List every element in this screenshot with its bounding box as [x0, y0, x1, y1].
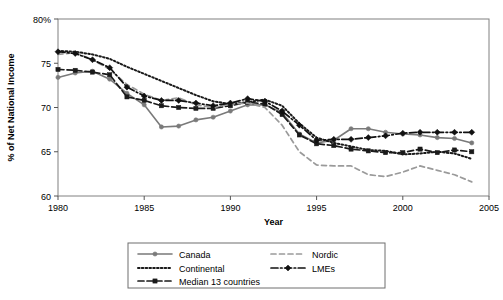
- data-point-marker: [401, 151, 405, 155]
- x-tick-label-1985: 1985: [134, 203, 154, 213]
- y-axis-title: % of Net National Income: [6, 53, 16, 161]
- x-tick-label-1995: 1995: [307, 203, 327, 213]
- x-tick-label-1990: 1990: [220, 203, 240, 213]
- data-point-marker: [332, 143, 336, 147]
- data-point-marker: [194, 106, 198, 110]
- legend-label-nordic: Nordic: [312, 250, 339, 260]
- data-point-marker: [383, 151, 387, 155]
- data-point-marker: [153, 279, 157, 283]
- y-tick-label-70: 70: [41, 103, 51, 113]
- data-point-marker: [153, 252, 157, 256]
- line-chart: 6065707580%198019851990199520002005Year%…: [0, 0, 503, 300]
- legend-label-continental: Continental: [179, 264, 225, 274]
- x-axis-title: Year: [264, 217, 284, 227]
- data-point-marker: [125, 95, 129, 99]
- data-point-marker: [418, 147, 422, 151]
- data-point-marker: [159, 104, 163, 108]
- data-point-marker: [470, 141, 474, 145]
- data-point-marker: [452, 148, 456, 152]
- data-point-marker: [435, 135, 439, 139]
- x-tick-label-2000: 2000: [393, 203, 413, 213]
- data-point-marker: [177, 124, 181, 128]
- legend-label-lmes: LMEs: [312, 264, 336, 274]
- legend-label-canada: Canada: [179, 250, 211, 260]
- data-point-marker: [470, 150, 474, 154]
- y-tick-label-60: 60: [41, 192, 51, 202]
- x-tick-label-1980: 1980: [48, 203, 68, 213]
- data-point-marker: [366, 127, 370, 131]
- data-point-marker: [211, 115, 215, 119]
- data-point-marker: [452, 136, 456, 140]
- data-point-marker: [297, 133, 301, 137]
- x-tick-label-2005: 2005: [479, 203, 499, 213]
- data-point-marker: [90, 70, 94, 74]
- y-tick-label-65: 65: [41, 147, 51, 157]
- data-point-marker: [159, 125, 163, 129]
- y-tick-label-75: 75: [41, 59, 51, 69]
- data-point-marker: [73, 68, 77, 72]
- data-point-marker: [56, 67, 60, 71]
- data-point-marker: [349, 147, 353, 151]
- y-tick-label-80: 80%: [33, 15, 51, 25]
- data-point-marker: [194, 118, 198, 122]
- data-point-marker: [366, 149, 370, 153]
- data-point-marker: [142, 103, 146, 107]
- legend-label-median-13-countries: Median 13 countries: [179, 277, 261, 287]
- data-point-marker: [177, 105, 181, 109]
- plot-frame: [58, 19, 489, 196]
- data-point-marker: [108, 73, 112, 77]
- data-point-marker: [349, 127, 353, 131]
- data-point-marker: [228, 109, 232, 113]
- data-point-marker: [56, 75, 60, 79]
- chart-figure: 6065707580%198019851990199520002005Year%…: [0, 0, 503, 300]
- data-point-marker: [435, 151, 439, 155]
